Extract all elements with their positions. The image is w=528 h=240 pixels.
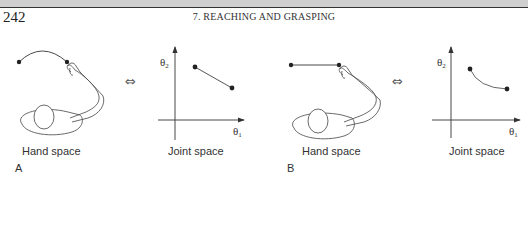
curved-joint-path (470, 69, 507, 89)
head-outline (34, 105, 54, 129)
equivalence-arrow-a: ⇔ (125, 74, 136, 89)
end-point (337, 63, 341, 67)
start-point (289, 63, 293, 67)
end-point (230, 86, 235, 91)
caption-b-joint-space: Joint space (449, 145, 505, 157)
caption-a-hand-space: Hand space (22, 145, 81, 157)
caption-b-hand-space: Hand space (302, 145, 361, 157)
panel-label-b: B (287, 162, 294, 174)
theta2-label: θ2 (160, 56, 169, 70)
theta1-label: θ1 (509, 125, 518, 139)
theta1-label: θ1 (233, 125, 242, 139)
panel-a-joint-space: θ2 θ1 (158, 47, 244, 140)
equivalence-arrow-b: ⇔ (392, 74, 403, 89)
panel-a-hand-space (17, 51, 104, 135)
start-point (193, 65, 198, 70)
arm-outline (339, 66, 380, 126)
theta2-label: θ2 (437, 56, 446, 70)
start-point (17, 60, 21, 64)
thumb-outline (342, 71, 345, 78)
start-point (468, 67, 473, 72)
curved-hand-path (19, 51, 67, 62)
caption-a-joint-space: Joint space (168, 145, 224, 157)
end-point (505, 87, 510, 92)
panel-b-hand-space (289, 63, 381, 139)
panel-label-a: A (15, 162, 22, 174)
head-outline (308, 109, 328, 133)
end-point (65, 60, 69, 64)
panel-b-joint-space: θ2 θ1 (432, 47, 520, 139)
straight-joint-path (195, 67, 232, 88)
thumb-outline (70, 68, 73, 75)
